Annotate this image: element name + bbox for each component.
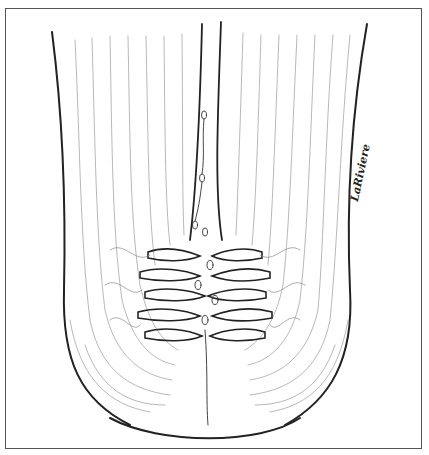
left-folds (138, 249, 205, 341)
left-seam (190, 24, 202, 240)
right-seam (217, 22, 222, 240)
right-lobe-fibers (236, 33, 350, 412)
left-lobe-fibers (70, 34, 184, 412)
right-folds (208, 249, 272, 341)
anatomical-illustration (0, 0, 429, 455)
seam-lower (205, 330, 208, 425)
bottom-contour (110, 418, 300, 438)
left-outer-contour (52, 32, 130, 425)
